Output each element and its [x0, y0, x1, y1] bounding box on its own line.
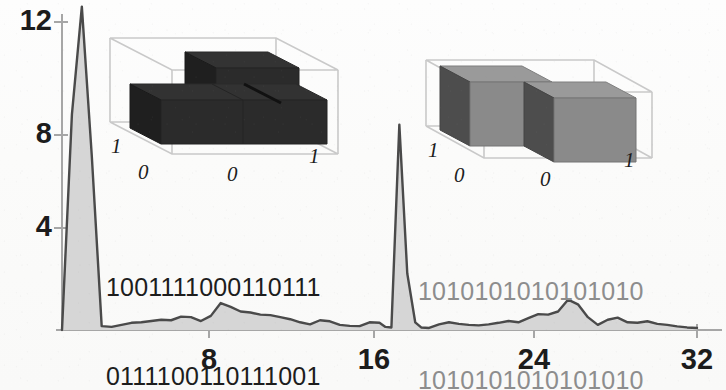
inset-left-xtick-1: 1 [309, 146, 320, 167]
inset-left-bar-front [130, 84, 327, 144]
binary-annotation-right: 1010101010101010 1010101010101010 [418, 218, 644, 390]
binary-right-line-1: 1010101010101010 [418, 277, 644, 307]
binary-left-line-2: 0111100110111001 [106, 362, 321, 390]
inset-left-xtick-0: 0 [227, 164, 238, 185]
figure-root: 12 8 4 8 16 24 32 [0, 0, 726, 390]
inset-right-xtick-0: 0 [540, 169, 551, 190]
inset-right-xtick-1: 1 [624, 150, 635, 171]
inset-left-bar3d: 1 0 0 1 [88, 14, 378, 189]
inset-right-bar3d: 1 0 0 1 [412, 22, 702, 197]
binary-left-line-1: 1001111000110111 [106, 273, 321, 303]
inset-left-ytick-0: 0 [138, 162, 149, 183]
inset-right-ytick-1: 1 [428, 140, 439, 161]
inset-right-ytick-0: 0 [454, 165, 465, 186]
binary-annotation-left: 1001111000110111 0111100110111001 [106, 214, 321, 390]
binary-right-line-2: 1010101010101010 [418, 366, 644, 390]
inset-left-ytick-1: 1 [111, 136, 122, 157]
inset-right-bar-b [524, 82, 636, 162]
